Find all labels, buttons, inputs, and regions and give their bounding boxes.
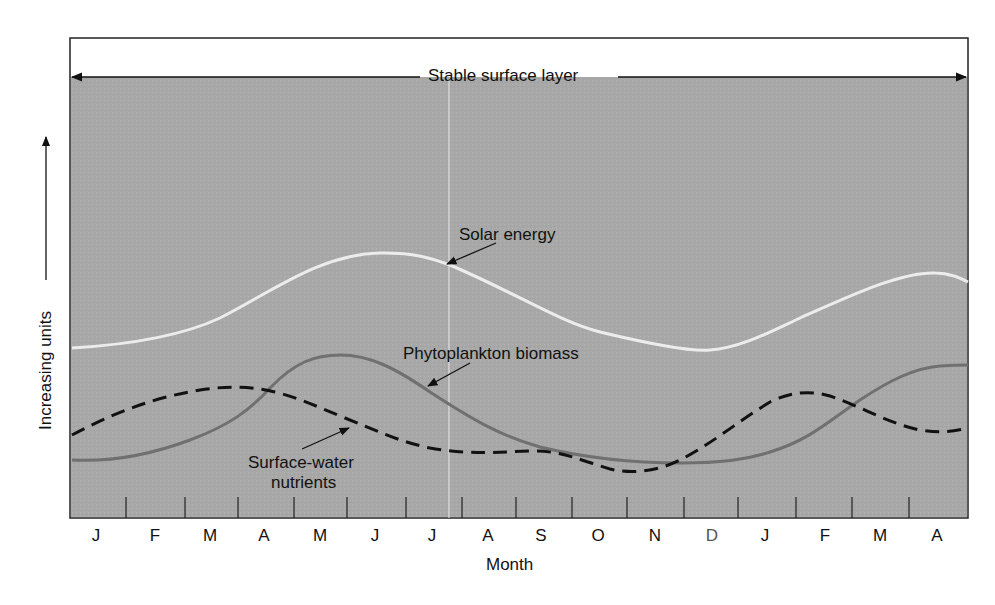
phytoplankton-biomass-label: Phytoplankton biomass [403,345,579,362]
x-tick-label: F [150,527,160,544]
x-tick-label: J [761,527,770,544]
x-tick-label: M [203,527,217,544]
x-tick-label: D [706,527,718,544]
solar-energy-label: Solar energy [459,226,555,243]
chart-canvas [0,0,995,605]
x-tick-label: J [371,527,380,544]
x-tick-label: S [535,527,546,544]
x-tick-label: M [313,527,327,544]
surface-water-nutrients-label-line2: nutrients [271,474,336,491]
x-tick-label: O [591,527,604,544]
x-axis-label: Month [486,556,533,573]
stable-surface-layer-label: Stable surface layer [428,67,578,84]
x-tick-label: A [931,527,942,544]
x-tick-label: J [428,527,437,544]
x-tick-label: N [649,527,661,544]
surface-water-nutrients-label-line1: Surface-water [248,454,354,471]
x-tick-label: A [258,527,269,544]
x-tick-label: A [482,527,493,544]
x-tick-label: F [820,527,830,544]
y-axis-label: Increasing units [37,311,54,430]
x-tick-label: J [92,527,101,544]
x-tick-label: M [873,527,887,544]
